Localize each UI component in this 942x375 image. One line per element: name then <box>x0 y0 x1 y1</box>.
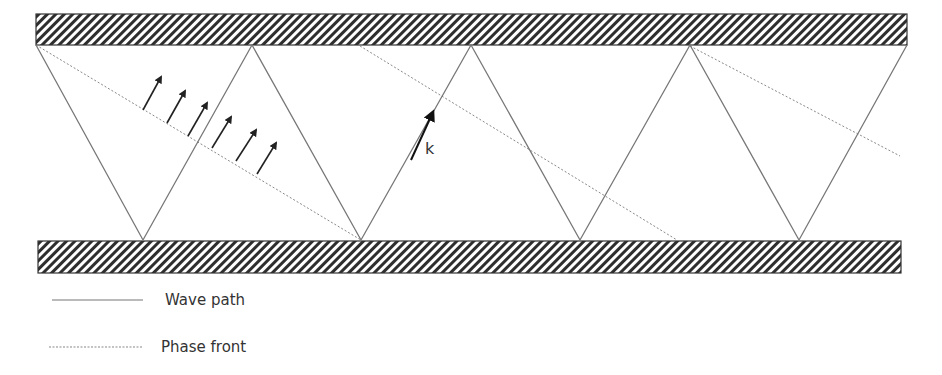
k-vector-label: k <box>425 139 435 158</box>
phase-arrow-icon <box>257 143 276 174</box>
wave-path-zigzag <box>36 45 907 240</box>
phase-front-line <box>360 46 677 240</box>
phase-front-line <box>36 45 361 240</box>
phase-arrow-icon <box>143 77 161 110</box>
phase-arrow-icon <box>212 117 231 148</box>
legend-label-wave-path: Wave path <box>165 291 245 309</box>
phase-arrow-icon <box>236 130 256 161</box>
legend-label-phase-front: Phase front <box>161 338 246 356</box>
phase-arrow-icon <box>167 91 185 123</box>
waveguide-diagram: k <box>0 0 942 375</box>
top-wall <box>36 14 907 45</box>
bottom-wall <box>38 241 901 273</box>
